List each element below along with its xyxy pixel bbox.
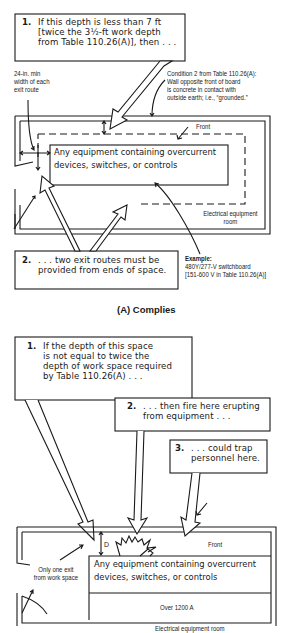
equipment-text-a: Any equipment containing overcurrent dev… bbox=[54, 148, 216, 170]
note-condition-line-3: is concrete in contact with bbox=[167, 86, 256, 94]
callout-2-a-number: 2. bbox=[22, 256, 38, 266]
callout-2-b-line-1: . . . then fire here erupting bbox=[143, 401, 260, 411]
arrow-exit-left bbox=[40, 176, 80, 251]
equipment-a-line-2: devices, switches, or controls bbox=[54, 161, 216, 171]
callout-1-b: 1.If the depth of this space is not equa… bbox=[27, 342, 172, 382]
callout-2-a-line-1: . . . two exit routes must be bbox=[38, 255, 159, 265]
front-label-b: Front bbox=[208, 541, 222, 549]
one-exit-line-2: from work space bbox=[31, 574, 81, 582]
note-condition-2: Condition 2 from Table 110.26(A): Wall o… bbox=[167, 70, 256, 102]
callout-1-b-number: 1. bbox=[27, 342, 43, 352]
room-label-b: Electrical equipment room bbox=[155, 625, 225, 633]
callout-3-b-number: 3. bbox=[175, 444, 191, 454]
example-title: Example: bbox=[185, 255, 266, 263]
one-exit-line-1: Only one exit bbox=[31, 566, 81, 574]
arrow-depth-b bbox=[25, 400, 94, 540]
callout-2-b-line-2: from equipment . . . bbox=[127, 412, 260, 422]
room-label-a-line-2: room bbox=[196, 218, 265, 226]
callout-2-a-line-2: provided from ends of space. bbox=[22, 266, 166, 276]
depth-label-b: D bbox=[104, 540, 109, 549]
note-exit-width-line-1: 24-in. min bbox=[14, 70, 49, 78]
callout-3-b-line-1: . . . could trap bbox=[191, 443, 253, 453]
callout-3-b-line-2: personnel here. bbox=[175, 454, 260, 464]
room-label-a-line-1: Electrical equipment bbox=[196, 210, 265, 218]
callout-1-a-line-3: from Table 110.26(A)], then . . . bbox=[22, 38, 176, 48]
callout-3-b: 3.. . . could trap personnel here. bbox=[175, 444, 260, 464]
callout-1-a: 1.If this depth is less than 7 ft [twice… bbox=[22, 18, 176, 48]
equipment-a-line-1: Any equipment containing overcurrent bbox=[54, 148, 216, 158]
callout-1-a-line-1: If this depth is less than 7 ft bbox=[38, 17, 161, 27]
rating-label-b: Over 1200 A bbox=[160, 604, 193, 612]
equipment-b-line-1: Any equipment containing overcurrent bbox=[94, 560, 256, 570]
note-condition-line-1: Condition 2 from Table 110.26(A): bbox=[167, 70, 256, 78]
callout-1-b-line-4: by Table 110.26(A) . . . bbox=[27, 372, 172, 382]
callout-1-b-line-1: If the depth of this space bbox=[43, 341, 153, 351]
arrow-exit-right bbox=[90, 205, 127, 251]
note-exit-width-line-2: width of each bbox=[14, 78, 49, 86]
equipment-b-line-2: devices, switches, or controls bbox=[94, 573, 256, 583]
note-condition-line-4: outside earth; i.e., “grounded.” bbox=[167, 94, 256, 102]
callout-2-a: 2.. . . two exit routes must be provided… bbox=[22, 256, 166, 276]
fire-icon bbox=[116, 536, 156, 556]
note-exit-width: 24-in. min width of each exit route bbox=[14, 70, 49, 94]
note-condition-line-2: Wall opposite front of board bbox=[167, 78, 256, 86]
note-exit-width-line-3: exit route bbox=[14, 86, 49, 94]
arrow-fire-b bbox=[128, 431, 147, 534]
example-note: Example: 480Y/277-V switchboard [151-600… bbox=[185, 255, 266, 279]
caption-a: (A) Complies bbox=[117, 305, 176, 316]
front-label-a: Front bbox=[196, 123, 210, 131]
example-line-1: 480Y/277-V switchboard bbox=[185, 263, 266, 271]
equipment-text-b: Any equipment containing overcurrent dev… bbox=[94, 560, 256, 582]
room-label-a: Electrical equipment room bbox=[196, 210, 265, 226]
callout-2-b: 2.. . . then fire here erupting from equ… bbox=[127, 402, 260, 422]
callout-1-a-number: 1. bbox=[22, 18, 38, 28]
example-line-2: [151-600 V in Table 110.26(A)] bbox=[185, 271, 266, 279]
arrow-depth-a bbox=[110, 61, 172, 129]
one-exit-note: Only one exit from work space bbox=[31, 566, 81, 582]
callout-2-b-number: 2. bbox=[127, 402, 143, 412]
